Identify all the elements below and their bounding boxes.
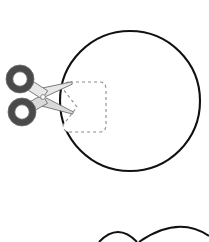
scissors-upper-handle-ring [6, 65, 34, 93]
scissors-pivot-screw [41, 95, 46, 100]
lower-ring-hole [15, 105, 29, 119]
scissors-lower-handle-ring [8, 98, 36, 126]
bottom-arc-large [139, 227, 209, 242]
scissors-cutting-circle-illustration: Scissors cutting a dashed patch out of a… [0, 0, 209, 242]
bottom-arc-small [99, 232, 137, 242]
scissors[interactable] [6, 65, 73, 126]
upper-ring-hole [13, 72, 27, 86]
illustration-canvas: Scissors cutting a dashed patch out of a… [0, 0, 209, 242]
cut-patch-dashed-outline [63, 82, 106, 132]
